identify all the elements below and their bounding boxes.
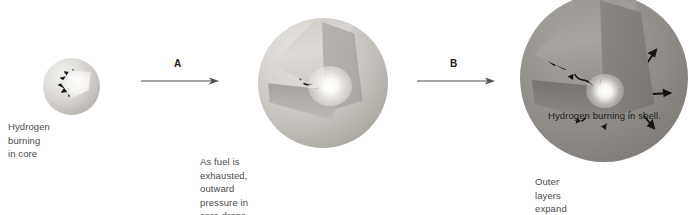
main-sequence-star-sphere xyxy=(43,58,100,115)
arrow-right-icon xyxy=(140,74,220,88)
stage-one-caption: Hydrogen burning in core xyxy=(8,120,50,161)
hot-core-glow xyxy=(586,74,624,108)
arrow-b-label: B xyxy=(450,58,457,69)
stage-three-shell-label: Hydrogen burning in shell. xyxy=(548,110,661,121)
star-core-region xyxy=(61,70,91,98)
stage-three-caption: Outer layers expand and cool. A red gian… xyxy=(535,175,567,215)
transition-arrow-b: B xyxy=(416,58,496,92)
red-giant-star-sphere: Hydrogen burning in shell. xyxy=(520,0,688,162)
contracting-core-star-sphere xyxy=(258,18,388,148)
arrow-a-label: A xyxy=(174,58,181,69)
transition-arrow-a: A xyxy=(140,58,220,92)
stage-two-caption: As fuel is exhausted, outward pressure i… xyxy=(200,155,252,215)
hot-core-glow xyxy=(308,66,352,106)
arrow-right-icon xyxy=(416,74,496,88)
